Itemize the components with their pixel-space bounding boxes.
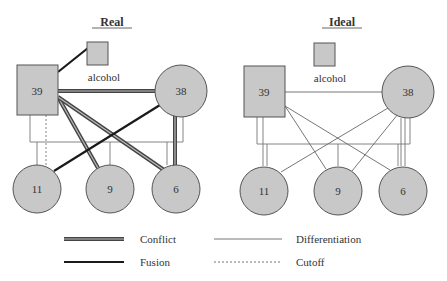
svg-text:38: 38 <box>176 85 188 97</box>
ideal-diagram: Ideal alcohol 39 38 11 9 6 <box>240 15 434 215</box>
legend-conflict: Conflict <box>140 233 176 245</box>
svg-text:9: 9 <box>107 183 113 195</box>
svg-text:11: 11 <box>259 185 270 197</box>
legend-fusion: Fusion <box>140 256 170 268</box>
svg-text:6: 6 <box>173 183 179 195</box>
legend: Conflict Differentiation Fusion Cutoff <box>64 233 362 268</box>
real-title: Real <box>100 15 124 29</box>
alcohol-label: alcohol <box>88 71 120 83</box>
svg-text:39: 39 <box>259 86 271 98</box>
svg-text:11: 11 <box>32 183 43 195</box>
differentiation-lines <box>281 92 398 172</box>
fusion-lines <box>54 48 160 171</box>
alcohol-node <box>314 43 335 66</box>
alcohol-node <box>87 42 108 65</box>
legend-cutoff: Cutoff <box>296 256 325 268</box>
svg-text:9: 9 <box>335 185 341 197</box>
family-diagram-canvas: Real alcohol 39 38 <box>0 0 447 281</box>
ideal-title: Ideal <box>329 15 356 29</box>
svg-text:38: 38 <box>403 86 415 98</box>
svg-text:6: 6 <box>400 185 406 197</box>
legend-differentiation: Differentiation <box>296 233 362 245</box>
svg-text:39: 39 <box>32 85 44 97</box>
real-diagram: Real alcohol 39 38 <box>13 15 207 213</box>
alcohol-label: alcohol <box>314 72 346 84</box>
